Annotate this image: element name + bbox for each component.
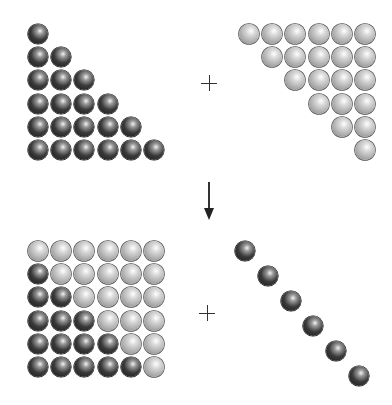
dark-ball bbox=[326, 341, 346, 361]
dark-diagonal bbox=[0, 0, 392, 405]
dark-ball bbox=[235, 241, 255, 261]
dark-ball bbox=[258, 266, 278, 286]
dark-ball bbox=[303, 316, 323, 336]
dark-ball bbox=[349, 366, 369, 386]
dark-ball bbox=[281, 291, 301, 311]
